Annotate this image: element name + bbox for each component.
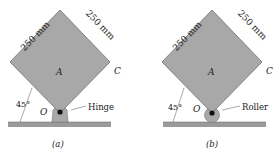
pivot-o-label: O xyxy=(40,107,48,117)
angle-label: 45° xyxy=(168,103,182,112)
caption: (a) xyxy=(52,139,64,149)
pivot-o-label: O xyxy=(193,104,201,114)
corner-c-label: C xyxy=(266,66,273,76)
figure-a: 250 mm 250 mm A C 45° O Hinge (a) xyxy=(8,8,121,149)
side-right-label: 250 mm xyxy=(236,8,269,42)
ground xyxy=(8,122,111,127)
center-label: A xyxy=(55,67,63,77)
figure-b: 250 mm 250 mm A C 45° O Roller (b) xyxy=(162,8,273,149)
center-label: A xyxy=(207,67,215,77)
ground xyxy=(163,122,266,127)
hinge-leader xyxy=(71,106,86,110)
side-right-label: 250 mm xyxy=(84,8,117,42)
support-label: Roller xyxy=(242,102,269,112)
pin xyxy=(57,109,62,114)
roller-leader xyxy=(222,106,240,110)
support-label: Hinge xyxy=(88,102,114,112)
corner-c-label: C xyxy=(114,66,121,76)
angle-label: 45° xyxy=(16,100,30,109)
caption: (b) xyxy=(206,139,218,149)
diagram-canvas: 250 mm 250 mm A C 45° O Hinge (a) 250 mm… xyxy=(0,0,279,154)
pin xyxy=(209,110,214,115)
